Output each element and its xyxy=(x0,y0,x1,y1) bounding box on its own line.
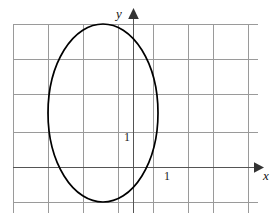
horizontal-gridlines xyxy=(13,25,258,203)
graph-figure: y x 1 1 xyxy=(0,0,275,219)
y-axis-label: y xyxy=(114,6,122,21)
x-axis-label: x xyxy=(262,168,269,183)
x-unit-tick-label: 1 xyxy=(164,169,170,183)
x-axis xyxy=(13,162,264,173)
coordinate-plane-plot: y x 1 1 xyxy=(0,0,275,219)
ellipse-curve xyxy=(48,24,158,202)
y-unit-tick-label: 1 xyxy=(124,130,130,144)
y-axis-arrowhead xyxy=(128,8,139,19)
